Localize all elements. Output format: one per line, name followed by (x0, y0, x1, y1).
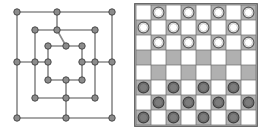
graph-node (63, 43, 69, 49)
graph-node (14, 59, 20, 65)
board-square[interactable] (226, 65, 241, 80)
board-square[interactable] (166, 35, 181, 50)
board-square[interactable] (136, 65, 151, 80)
board-square[interactable] (151, 20, 166, 35)
graph-node (54, 27, 60, 33)
board-square[interactable] (136, 5, 151, 20)
board-square[interactable] (166, 5, 181, 20)
nested-square-lattice-graph-figure (0, 0, 132, 132)
graph-node (109, 115, 115, 121)
board-square[interactable] (196, 95, 211, 110)
board-square[interactable] (136, 95, 151, 110)
board-square[interactable] (241, 20, 256, 35)
graph-node (45, 43, 51, 49)
board-square[interactable] (226, 95, 241, 110)
graph-node (63, 77, 69, 83)
graph-node (109, 9, 115, 15)
board-square[interactable] (226, 50, 241, 65)
graph-node (109, 59, 115, 65)
graph-node (45, 77, 51, 83)
board-square[interactable] (196, 50, 211, 65)
board-square[interactable] (151, 80, 166, 95)
graph-node (32, 59, 38, 65)
board-square[interactable] (241, 50, 256, 65)
board-square[interactable] (151, 110, 166, 125)
board-square[interactable] (241, 80, 256, 95)
figure-pair-container (0, 0, 264, 132)
graph-node (14, 9, 20, 15)
board-square[interactable] (196, 35, 211, 50)
board-square[interactable] (166, 50, 181, 65)
graph-node (79, 59, 85, 65)
graph-node (45, 59, 51, 65)
graph-canvas (0, 0, 132, 132)
board-square[interactable] (181, 65, 196, 80)
board-square[interactable] (211, 110, 226, 125)
board-square[interactable] (151, 65, 166, 80)
graph-node (63, 95, 69, 101)
graph-node (63, 115, 69, 121)
graph-node (32, 27, 38, 33)
board-square[interactable] (241, 110, 256, 125)
board-square[interactable] (136, 50, 151, 65)
board-square[interactable] (211, 65, 226, 80)
board-square[interactable] (136, 35, 151, 50)
board-square[interactable] (166, 95, 181, 110)
graph-node (79, 43, 85, 49)
graph-node (92, 95, 98, 101)
board-square[interactable] (181, 50, 196, 65)
board-square[interactable] (211, 80, 226, 95)
graph-node (92, 59, 98, 65)
board-square[interactable] (196, 5, 211, 20)
graph-node (92, 27, 98, 33)
board-square[interactable] (181, 80, 196, 95)
board-square[interactable] (211, 20, 226, 35)
board-square[interactable] (181, 20, 196, 35)
board-square[interactable] (196, 65, 211, 80)
board-canvas (132, 0, 264, 132)
graph-node-group (14, 9, 115, 121)
graph-node (32, 95, 38, 101)
board-square[interactable] (226, 5, 241, 20)
board-square[interactable] (226, 35, 241, 50)
board-square[interactable] (166, 65, 181, 80)
graph-node (14, 115, 20, 121)
board-square[interactable] (181, 110, 196, 125)
board-square[interactable] (211, 50, 226, 65)
checkers-board-figure (132, 0, 264, 132)
graph-node (79, 77, 85, 83)
board-square[interactable] (241, 65, 256, 80)
board-square[interactable] (151, 50, 166, 65)
graph-node (54, 9, 60, 15)
